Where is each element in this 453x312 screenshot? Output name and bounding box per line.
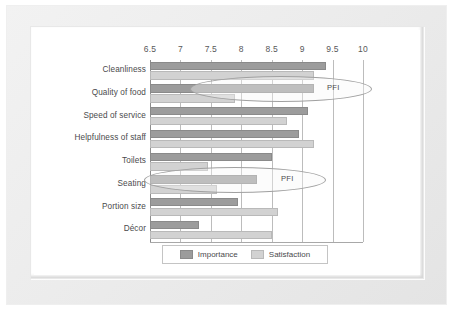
category-label: Helpfulness of staff [75,133,146,142]
chart-panel: 6.577.588.599.510 CleanlinessQuality of … [34,30,420,275]
bar-rows: CleanlinessQuality of foodSpeed of servi… [34,60,420,242]
x-axis-baseline [150,242,363,243]
bar-satisfaction [150,71,314,79]
x-tick-label: 6.5 [144,44,156,54]
bar-satisfaction [150,117,287,125]
bar-importance [150,153,272,161]
bar-importance [150,175,257,183]
category-label: Décor [124,224,146,233]
legend-swatch-satisfaction [251,250,264,259]
bar-row: Toilets [34,151,420,174]
x-tick-label: 8.5 [265,44,277,54]
category-label: Toilets [122,156,146,165]
bar-row: Cleanliness [34,60,420,83]
category-label: Speed of service [83,111,146,120]
category-label: Seating [118,179,146,188]
bar-satisfaction [150,208,278,216]
bar-importance [150,62,326,70]
bar-row: Portion size [34,197,420,220]
pfi-callout-label-quality-of-food: PFI [327,83,340,92]
x-tick-label: 7.5 [205,44,217,54]
category-label: Quality of food [92,88,146,97]
chart-legend: Importance Satisfaction [162,245,328,264]
legend-swatch-importance [180,250,193,259]
category-label: Portion size [102,202,146,211]
legend-label-satisfaction: Satisfaction [269,250,310,259]
category-label: Cleanliness [103,65,146,74]
bar-satisfaction [150,140,314,148]
bar-importance [150,130,299,138]
bar-row: Quality of food [34,83,420,106]
x-tick-label: 7 [178,44,183,54]
legend-entry-importance: Importance [180,250,238,259]
legend-entry-satisfaction: Satisfaction [251,250,310,259]
bar-satisfaction [150,231,272,239]
pfi-callout-label-toilets: PFI [281,174,294,183]
bar-satisfaction [150,94,235,102]
bar-importance [150,198,238,206]
x-tick-label: 9.5 [326,44,338,54]
bar-importance [150,84,314,92]
plot-area: 6.577.588.599.510 CleanlinessQuality of … [34,30,420,275]
bar-row: Speed of service [34,106,420,129]
x-tick-label: 10 [358,44,368,54]
x-axis-tick-labels: 6.577.588.599.510 [34,44,420,58]
bar-satisfaction [150,185,217,193]
bar-satisfaction [150,162,208,170]
bar-importance [150,221,199,229]
bar-row: Helpfulness of staff [34,128,420,151]
bar-importance [150,107,308,115]
legend-label-importance: Importance [198,250,238,259]
screenshot-root: 6.577.588.599.510 CleanlinessQuality of … [0,0,453,312]
bar-row: Décor [34,219,420,242]
x-tick-label: 8 [239,44,244,54]
x-tick-label: 9 [300,44,305,54]
bar-row: Seating [34,174,420,197]
